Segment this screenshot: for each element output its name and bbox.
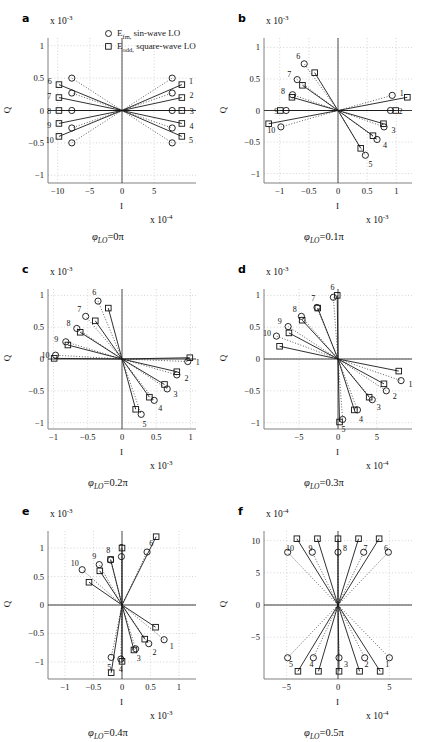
data-marker-circle (96, 561, 102, 567)
y-tick-label: 0.5 (33, 73, 44, 83)
legend-label-text: square-wave LO (134, 41, 196, 51)
point-index-label: 8 (66, 319, 70, 328)
point-index-label: 1 (409, 380, 413, 389)
y-tick-label: −0.5 (29, 386, 44, 396)
vector-line (122, 85, 182, 111)
panel-b: bx 10-3x 10-3QIφLO=0.1π−1−0.500.51−1−0.5… (216, 0, 432, 247)
data-marker-square (300, 82, 306, 88)
x-tick-label: 0 (336, 186, 340, 196)
vector-line (122, 359, 177, 375)
x-tick-label: 0 (336, 682, 340, 692)
point-index-label: 9 (54, 335, 58, 344)
point-index-label: 10 (46, 136, 54, 145)
vector-line (122, 78, 172, 110)
point-index-label: 8 (47, 107, 51, 116)
vector-line (122, 93, 172, 110)
y-tick-label: −1 (35, 170, 44, 180)
point-index-label: 5 (369, 160, 373, 169)
point-index-label: 1 (196, 358, 200, 367)
vector-line (281, 111, 338, 127)
x-tick-label: 1 (188, 432, 192, 442)
point-index-label: 2 (190, 91, 194, 100)
y-tick-label: 0 (40, 106, 44, 116)
vector-line (318, 605, 338, 671)
vector-line (298, 605, 338, 671)
data-marker-square (97, 568, 103, 574)
vector-line (318, 308, 338, 359)
y-tick-label: 10 (252, 536, 261, 546)
x-tick-label: 0 (120, 682, 124, 692)
x-tick-label: 0 (120, 432, 124, 442)
data-marker-circle (161, 637, 167, 643)
point-index-label: 3 (137, 654, 141, 663)
point-index-label: 3 (391, 126, 395, 135)
vector-line (297, 539, 338, 605)
y-tick-label: 0.5 (249, 322, 260, 332)
point-index-label: 4 (158, 404, 162, 413)
panel-a: ax 10-3x 10-4QIφLO=0π−10−505−1−0.500.511… (0, 0, 216, 247)
point-index-label: 1 (385, 660, 389, 669)
vector-line (122, 552, 147, 605)
data-marker-circle (398, 378, 404, 384)
point-index-label: 5 (189, 136, 193, 145)
vector-line (122, 111, 182, 124)
point-index-label: 7 (364, 544, 368, 553)
point-index-label: 5 (341, 425, 345, 434)
point-index-label: 6 (384, 544, 388, 553)
data-marker-square (357, 668, 363, 674)
point-index-label: 9 (278, 317, 282, 326)
y-tick-label: 0.5 (33, 322, 44, 332)
figure-panel-grid: ax 10-3x 10-4QIφLO=0π−10−505−1−0.500.511… (0, 0, 432, 742)
point-index-label: 8 (343, 544, 347, 553)
point-index-label: 7 (119, 543, 123, 552)
point-index-label: 4 (359, 415, 363, 424)
panel-d: dx 10-3x 10-4QIφLO=0.3π−505−1−0.500.5112… (216, 247, 432, 487)
data-marker-circle (169, 125, 175, 131)
x-tick-label: −0.5 (80, 432, 95, 442)
data-marker-circle (146, 641, 152, 647)
point-index-label: 6 (331, 283, 335, 292)
x-tick-label: 0.5 (362, 186, 373, 196)
point-index-label: 2 (152, 648, 156, 657)
plot-area-e: −1−0.500.51−1−0.500.5112345678910 (0, 487, 216, 742)
x-tick-label: 5 (375, 432, 379, 442)
y-tick-label: 0 (40, 600, 44, 610)
point-index-label: 1 (170, 642, 174, 651)
point-index-label: 3 (344, 660, 348, 669)
x-tick-label: 0 (336, 432, 340, 442)
point-index-label: 8 (281, 87, 285, 96)
point-index-label: 4 (383, 141, 387, 150)
data-marker-circle (273, 333, 279, 339)
y-tick-label: 0 (256, 106, 260, 116)
data-marker-circle (118, 554, 124, 560)
legend-label-text: sin-wave LO (131, 28, 180, 38)
x-tick-label: −5 (85, 186, 94, 196)
x-tick-label: 0.5 (145, 682, 156, 692)
point-index-label: 3 (174, 390, 178, 399)
point-index-label: 9 (308, 544, 312, 553)
data-marker-circle (138, 411, 144, 417)
data-marker-square (105, 305, 111, 311)
x-tick-label: −5 (282, 682, 291, 692)
x-tick-label: 0.5 (151, 432, 162, 442)
vector-line (288, 552, 338, 605)
panel-e: ex 10-3x 10-3QIφLO=0.4π−1−0.500.51−1−0.5… (0, 487, 216, 742)
legend-item-eodd: Eodd, square-wave LO (104, 41, 196, 53)
plot-area-b: −1−0.500.51−1−0.500.5112345678910 (216, 0, 432, 260)
vector-line (302, 320, 338, 359)
y-tick-label: −0.5 (245, 137, 260, 147)
y-tick-label: −0.5 (29, 628, 44, 638)
vector-line (338, 605, 360, 671)
vector-line (122, 605, 164, 640)
vector-line (304, 64, 338, 111)
vector-line (122, 359, 164, 384)
point-index-label: 6 (48, 77, 52, 86)
point-index-label: 2 (184, 374, 188, 383)
y-tick-label: −1 (35, 657, 44, 667)
vector-line (338, 359, 399, 371)
vector-line (312, 552, 338, 605)
point-index-label: 2 (398, 107, 402, 116)
vector-line (338, 97, 407, 110)
point-index-label: 3 (190, 107, 194, 116)
x-tick-label: −0.5 (86, 682, 101, 692)
